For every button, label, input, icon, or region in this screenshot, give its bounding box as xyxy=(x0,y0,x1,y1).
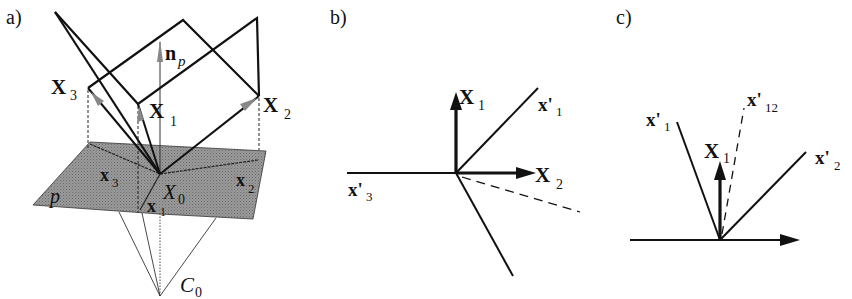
label-c-x12p-sub: 12 xyxy=(765,100,778,115)
panel-c-label: c) xyxy=(616,6,632,29)
label-b-x1p: x' xyxy=(538,94,553,115)
panel-b-label: b) xyxy=(330,6,347,29)
label-X2-sub: 2 xyxy=(284,107,291,122)
arrowhead-X2-icon xyxy=(516,167,536,179)
label-c-x1p-sub: 1 xyxy=(664,119,671,134)
panel-b: b) X 1 x' 1 X 2 x' 3 xyxy=(330,6,580,276)
label-c-X1-sub: 1 xyxy=(723,151,730,166)
panel-a: a) xyxy=(6,6,291,299)
label-np: n xyxy=(165,42,176,64)
label-x1-sub: 1 xyxy=(160,205,166,219)
line-x2p xyxy=(720,152,806,240)
label-c-x2p: x' xyxy=(815,147,830,168)
label-X1: X xyxy=(149,99,164,123)
label-X0: X xyxy=(162,180,177,204)
label-b-x1p-sub: 1 xyxy=(556,104,563,119)
label-c-x12p: x' xyxy=(747,89,762,110)
line-lower xyxy=(456,173,513,276)
label-c-X1: X xyxy=(704,139,719,163)
label-c-x2p-sub: 2 xyxy=(834,158,841,173)
label-b-X2-sub: 2 xyxy=(556,177,563,192)
figure-canvas: a) xyxy=(0,0,852,299)
label-C0: C xyxy=(180,273,195,297)
label-plane-p: p xyxy=(48,185,60,208)
label-X0-sub: 0 xyxy=(178,192,185,207)
label-b-X1: X xyxy=(459,85,474,109)
normal-arrowhead-icon xyxy=(157,40,163,62)
arrowhead-c-horizontal-icon xyxy=(780,234,800,246)
label-x2: x xyxy=(236,170,245,190)
label-C0-sub: 0 xyxy=(195,285,202,299)
line-x12p-dashed xyxy=(722,108,744,234)
label-X1-sub: 1 xyxy=(170,114,177,129)
label-x3-sub: 3 xyxy=(112,175,119,190)
label-X2: X xyxy=(263,93,278,117)
label-x2-sub: 2 xyxy=(248,181,255,196)
label-b-x3p-sub: 3 xyxy=(366,189,373,204)
label-x1: x xyxy=(147,196,156,216)
camera-rays xyxy=(119,212,216,296)
panel-c: c) x' 12 x' 1 X 1 x' 2 xyxy=(616,6,841,246)
label-b-x3p: x' xyxy=(348,179,363,200)
label-X3: X xyxy=(51,75,66,99)
label-b-X2: X xyxy=(535,163,550,187)
label-c-x1p: x' xyxy=(646,109,661,130)
panel-a-label: a) xyxy=(6,6,22,29)
label-X3-sub: 3 xyxy=(70,88,77,103)
label-x3: x xyxy=(100,165,109,185)
label-np-sub: p xyxy=(177,53,186,69)
label-b-X1-sub: 1 xyxy=(478,98,485,113)
